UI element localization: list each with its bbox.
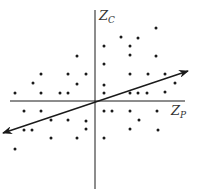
data-point xyxy=(103,45,106,48)
data-point xyxy=(59,92,62,95)
data-point xyxy=(67,73,70,76)
data-point xyxy=(147,73,150,76)
data-point xyxy=(40,92,43,95)
data-point xyxy=(103,137,106,140)
zp-axis-label: ZP xyxy=(170,103,187,120)
data-point xyxy=(129,110,132,113)
data-point xyxy=(67,119,70,122)
data-point xyxy=(85,120,88,123)
scatter-diagram: ZC ZP xyxy=(0,0,197,189)
data-point xyxy=(50,137,53,140)
data-point xyxy=(40,73,43,76)
data-point xyxy=(137,92,140,95)
data-point xyxy=(137,37,140,40)
data-point xyxy=(31,129,34,132)
data-point xyxy=(164,91,167,94)
data-point xyxy=(129,73,132,76)
data-point xyxy=(156,110,159,113)
data-point xyxy=(76,55,79,58)
data-point xyxy=(155,55,158,58)
data-point xyxy=(76,83,79,86)
data-point xyxy=(146,92,149,95)
data-point xyxy=(14,148,17,151)
data-point xyxy=(23,129,26,132)
data-point xyxy=(50,119,53,122)
data-point xyxy=(67,92,70,95)
data-point xyxy=(40,110,43,113)
data-point xyxy=(174,82,177,85)
data-point xyxy=(129,92,132,95)
data-point xyxy=(138,119,141,122)
data-point xyxy=(111,110,114,113)
data-point xyxy=(155,27,158,30)
data-point xyxy=(120,36,123,39)
data-point xyxy=(103,92,106,95)
data-point xyxy=(103,110,106,113)
data-point xyxy=(85,73,88,76)
data-point xyxy=(32,82,35,85)
data-point xyxy=(164,73,167,76)
data-point xyxy=(85,128,88,131)
data-point xyxy=(129,54,132,57)
data-point xyxy=(157,129,160,132)
data-point xyxy=(76,137,79,140)
data-point xyxy=(129,128,132,131)
data-point xyxy=(103,84,106,87)
zc-axis-label: ZC xyxy=(98,8,115,25)
data-point xyxy=(14,92,17,95)
data-point xyxy=(103,63,106,66)
data-point xyxy=(23,110,26,113)
data-point xyxy=(129,45,132,48)
